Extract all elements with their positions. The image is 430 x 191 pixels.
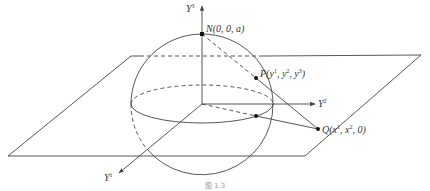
point-n-label: N(0, 0, a) (206, 24, 244, 34)
point-q-label: Q(x1, x2, 0) (322, 124, 366, 135)
point-p (254, 76, 258, 80)
point-equator (254, 114, 258, 118)
y2-axis-label: Y2 (318, 98, 327, 109)
figure-caption: 图 1.3 (0, 183, 430, 190)
y1-axis-label: Y1 (104, 172, 113, 183)
point-n (200, 32, 204, 36)
point-p-label: P(y1, y2, y3) (260, 68, 305, 79)
y3-axis-label: Y3 (186, 3, 195, 14)
point-q (316, 127, 320, 131)
plane (8, 55, 421, 156)
